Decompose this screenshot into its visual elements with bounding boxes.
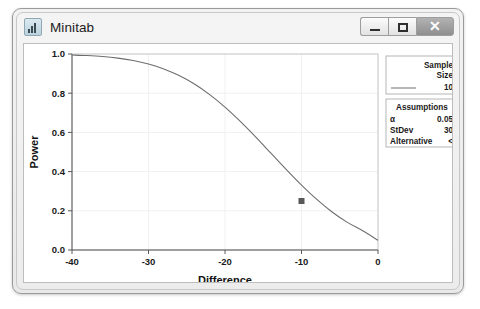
assumption-value-0: 0.05: [437, 115, 453, 124]
sample-size-header-line2: Size: [437, 71, 453, 80]
sample-size-legend: Sample Size 10: [386, 56, 453, 94]
assumption-value-2: <: [448, 137, 453, 146]
power-point-marker[interactable]: [299, 198, 305, 204]
maximize-icon: [398, 23, 408, 32]
bar-chart-icon: [24, 18, 42, 36]
title-bar[interactable]: Minitab ✕: [17, 13, 459, 41]
svg-text:0.2: 0.2: [52, 205, 65, 216]
svg-text:0.0: 0.0: [52, 244, 65, 255]
svg-text:0: 0: [375, 256, 380, 267]
power-curve-chart-panel: -40-30-20-100 0.00.20.40.60.81.0 Differe…: [23, 43, 453, 283]
x-axis-tick-labels: -40-30-20-100: [65, 256, 381, 267]
sample-size-header-line1: Sample: [424, 61, 453, 70]
svg-text:-40: -40: [65, 256, 79, 267]
svg-text:0.6: 0.6: [52, 127, 65, 138]
svg-text:-10: -10: [295, 256, 309, 267]
power-curve-chart: -40-30-20-100 0.00.20.40.60.81.0 Differe…: [24, 44, 453, 283]
x-axis-ticks: [72, 250, 378, 254]
close-button[interactable]: ✕: [416, 17, 454, 36]
svg-text:0.8: 0.8: [52, 88, 65, 99]
svg-text:0.4: 0.4: [52, 166, 66, 177]
svg-text:1.0: 1.0: [52, 48, 65, 59]
sample-size-value: 10: [444, 83, 453, 92]
assumptions-legend: Assumptions α 0.05 StDev 30 Alternative …: [386, 99, 453, 147]
maximize-button[interactable]: [388, 17, 416, 36]
assumptions-title: Assumptions: [396, 103, 448, 112]
y-axis-title: Power: [28, 135, 40, 169]
x-axis-title: Difference: [198, 274, 252, 283]
window-controls: ✕: [360, 17, 454, 36]
y-axis-ticks: [68, 54, 72, 250]
minitab-window: Minitab ✕: [12, 8, 464, 294]
minimize-button[interactable]: [360, 17, 388, 36]
window-inner-frame: Minitab ✕: [16, 12, 460, 290]
svg-text:-20: -20: [218, 256, 232, 267]
assumption-label-2: Alternative: [390, 137, 433, 146]
svg-text:-30: -30: [142, 256, 156, 267]
y-axis-tick-labels: 0.00.20.40.60.81.0: [52, 48, 66, 255]
assumption-label-1: StDev: [390, 126, 414, 135]
assumption-label-0: α: [390, 115, 395, 124]
close-icon: ✕: [417, 18, 453, 35]
minimize-icon: [370, 29, 380, 31]
assumption-value-1: 30: [444, 126, 453, 135]
window-title: Minitab: [50, 20, 94, 35]
